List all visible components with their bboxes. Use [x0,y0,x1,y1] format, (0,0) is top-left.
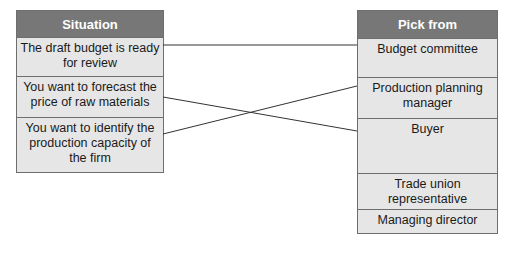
connection-line [163,97,357,131]
situation-item[interactable]: The draft budget is ready for review [17,37,163,76]
situation-item[interactable]: You want to forecast the price of raw ma… [17,76,163,117]
pick-from-table: Pick from Budget committee Production pl… [357,10,498,234]
pick-from-item[interactable]: Budget committee [358,38,497,77]
pick-from-item[interactable]: Trade union representative [358,173,497,209]
pick-from-item[interactable]: Managing director [358,209,497,234]
pick-from-item[interactable]: Production planning manager [358,77,497,118]
pick-from-item[interactable]: Buyer [358,118,497,173]
connection-line [163,86,357,134]
pick-from-header: Pick from [358,11,497,38]
situation-table: Situation The draft budget is ready for … [16,10,164,173]
situation-item[interactable]: You want to identify the production capa… [17,117,163,173]
situation-header: Situation [17,11,163,37]
